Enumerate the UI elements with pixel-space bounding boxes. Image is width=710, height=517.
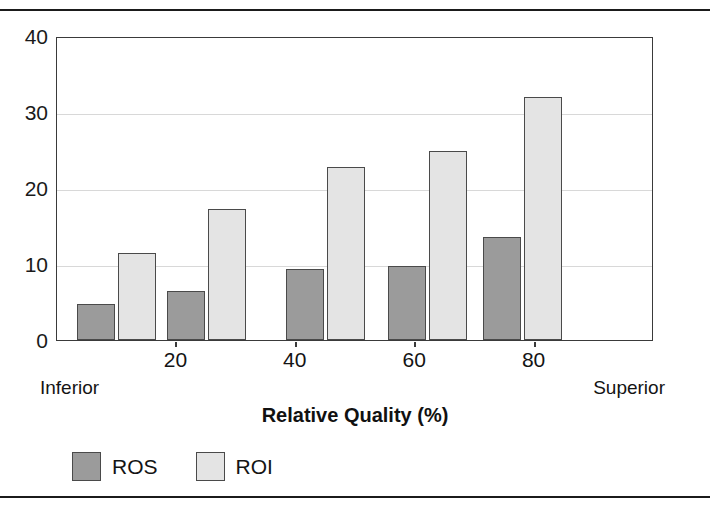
legend-swatch-icon <box>196 452 225 481</box>
bar-ros <box>388 266 426 340</box>
x-axis-tick-label: 60 <box>403 349 426 370</box>
legend-item-label: ROI <box>236 456 273 477</box>
x-axis-tick-label: 80 <box>522 349 545 370</box>
bar-series-group <box>57 38 652 340</box>
bar-ros <box>77 304 115 340</box>
x-axis-tick-mark <box>414 342 416 347</box>
y-axis-tick-value: 0 <box>36 330 48 351</box>
bottom-divider-rule <box>0 496 710 498</box>
top-divider-rule <box>0 9 710 11</box>
x-axis-tick-label: 20 <box>164 349 187 370</box>
x-axis-tick-mark <box>534 342 536 347</box>
plot-area <box>56 37 653 341</box>
figure-container: 010203040 20406080 Inferior Superior Rel… <box>0 0 710 517</box>
x-axis-tick-label: 40 <box>283 349 306 370</box>
legend-swatch-icon <box>72 452 101 481</box>
bar-roi <box>524 97 562 340</box>
bar-ros <box>167 291 205 340</box>
x-axis-tick-mark <box>175 342 177 347</box>
legend-item-ros[interactable]: ROS <box>72 452 158 481</box>
chart-legend: ROSROI <box>72 452 273 481</box>
y-axis-tick-value: 40 <box>25 26 48 47</box>
x-axis-title: Relative Quality (%) <box>0 404 710 427</box>
legend-item-roi[interactable]: ROI <box>196 452 273 481</box>
x-axis-endpoint-left: Inferior <box>40 378 99 397</box>
bar-roi <box>327 167 365 340</box>
x-axis-ticks: 20406080 <box>56 341 653 342</box>
y-axis-tick-value: 30 <box>25 102 48 123</box>
bar-roi <box>118 253 156 340</box>
y-axis-tick-value: 20 <box>25 178 48 199</box>
bar-roi <box>208 209 246 340</box>
legend-item-label: ROS <box>112 456 158 477</box>
x-axis-tick-mark <box>295 342 297 347</box>
bar-roi <box>429 151 467 340</box>
bar-ros <box>286 269 324 340</box>
y-axis-tick-value: 10 <box>25 254 48 275</box>
x-axis-endpoint-right: Superior <box>593 378 665 397</box>
bar-ros <box>483 237 521 340</box>
